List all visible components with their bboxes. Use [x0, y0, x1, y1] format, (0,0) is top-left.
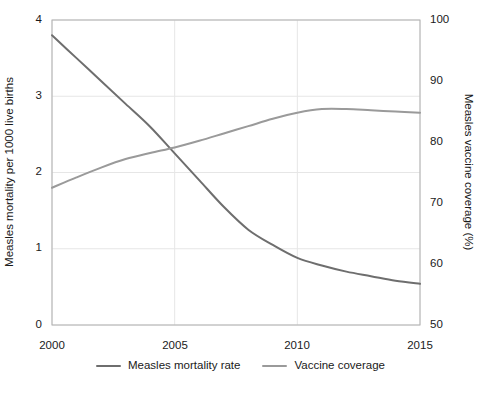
- y-axis-left-tick-2: 2: [26, 166, 42, 178]
- legend-label-mortality: Measles mortality rate: [128, 360, 240, 372]
- y-axis-left-tick-1: 1: [26, 242, 42, 254]
- series-lines: [52, 35, 420, 284]
- series-line-coverage: [52, 109, 420, 188]
- y-axis-left-tick-4: 4: [26, 14, 42, 26]
- legend-label-coverage: Vaccine coverage: [294, 360, 385, 372]
- chart-figure: 4 3 2 1 0 100 90 80 70 60 50 2000 2005 2…: [0, 0, 481, 404]
- y-axis-left-tick-0: 0: [26, 319, 42, 331]
- y-axis-right-tick-100: 100: [430, 14, 449, 26]
- y-axis-left-tick-3: 3: [26, 90, 42, 102]
- y-axis-right-tick-60: 60: [430, 258, 443, 270]
- y-axis-right-tick-70: 70: [430, 197, 443, 209]
- legend-swatch-coverage-icon: [262, 365, 287, 367]
- y-axis-right-tick-80: 80: [430, 136, 443, 148]
- legend-swatch-mortality-icon: [96, 365, 121, 367]
- x-axis-tick-2000: 2000: [39, 340, 65, 352]
- legend-item-coverage[interactable]: Vaccine coverage: [262, 360, 385, 372]
- x-axis-tick-2015: 2015: [407, 340, 433, 352]
- y-axis-left-title: Measles mortality per 1000 live births: [4, 77, 16, 267]
- legend-item-mortality[interactable]: Measles mortality rate: [96, 360, 240, 372]
- x-axis-tick-2010: 2010: [284, 340, 310, 352]
- gridlines: [52, 20, 420, 325]
- chart-legend: Measles mortality rate Vaccine coverage: [0, 360, 481, 372]
- series-line-mortality: [52, 35, 420, 284]
- y-axis-right-tick-50: 50: [430, 319, 443, 331]
- y-axis-right-title: Measles vaccine coverage (%): [462, 94, 474, 251]
- x-axis-tick-2005: 2005: [162, 340, 188, 352]
- y-axis-right-tick-90: 90: [430, 75, 443, 87]
